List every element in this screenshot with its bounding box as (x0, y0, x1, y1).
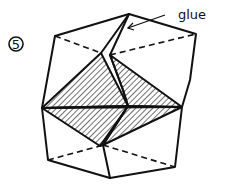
horizontal-crease (42, 107, 182, 108)
glue-label: glue (178, 7, 206, 22)
origami-diagram: 5 glue (0, 0, 225, 190)
fold-line-top-left (55, 36, 101, 53)
glue-annotation: glue (128, 7, 206, 30)
step-number: 5 (12, 37, 20, 52)
glue-seam-left (101, 14, 129, 53)
fold-line-top-right (110, 34, 196, 55)
lower-seam-join (100, 145, 103, 146)
step-number-badge: 5 (9, 37, 23, 52)
fold-line-bottom-right (103, 145, 175, 167)
glue-arrow-line (128, 15, 165, 28)
fold-line-bottom-left (48, 146, 100, 160)
